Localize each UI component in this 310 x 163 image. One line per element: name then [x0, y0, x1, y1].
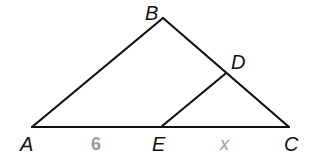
label-b: B	[145, 2, 158, 24]
label-e: E	[152, 133, 166, 155]
label-a: A	[19, 133, 33, 155]
segment-de	[161, 74, 225, 127]
segment-ab	[32, 18, 163, 127]
measure-ae: 6	[91, 134, 101, 154]
label-d: D	[231, 51, 245, 73]
triangle-diagram: B D A E C 6 x	[0, 0, 310, 163]
measure-ec: x	[219, 134, 230, 154]
label-c: C	[284, 133, 299, 155]
